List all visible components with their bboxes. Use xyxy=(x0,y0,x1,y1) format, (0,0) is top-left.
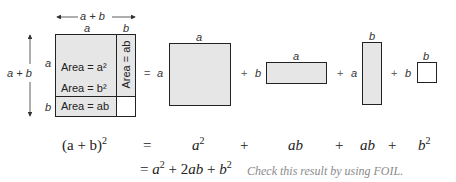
piece-a-squared xyxy=(169,43,231,106)
row1-plus-1: + xyxy=(240,138,248,153)
plus-sign-1: + xyxy=(241,68,247,79)
row2-b-exponent: 2 xyxy=(227,159,232,170)
term1-base: a xyxy=(192,137,200,153)
top-label-a: a xyxy=(84,23,90,34)
row2-expression: = a2 + 2ab + b2 xyxy=(140,162,232,177)
area-a-squared-text: Area = a² xyxy=(61,62,107,73)
piece-ab-horizontal-side-label: b xyxy=(255,68,261,79)
side-label-b: b xyxy=(45,102,51,113)
piece-ab-vertical xyxy=(362,42,382,105)
piece-b-squared-top-label: b xyxy=(423,51,429,62)
term1-exponent: 2 xyxy=(200,135,205,146)
row2-a-exponent: 2 xyxy=(160,159,165,170)
piece-b-squared-side-label: b xyxy=(405,68,411,79)
foil-note: Check this result by using FOIL. xyxy=(247,165,403,177)
row2-plus-1: + xyxy=(168,161,176,177)
row1-term-a-squared: a2 xyxy=(192,138,205,153)
term3-text: ab xyxy=(360,137,375,153)
row2-plus-2: + xyxy=(207,161,215,177)
term2-text: ab xyxy=(288,137,303,153)
row1-term-ab-1: ab xyxy=(288,138,303,153)
piece-ab-vertical-top-label: b xyxy=(369,31,375,42)
piece-ab-vertical-side-label: a xyxy=(351,68,357,79)
row1-term-b-squared: b2 xyxy=(418,138,431,153)
row1-plus-3: + xyxy=(388,138,396,153)
row1-plus-2: + xyxy=(335,138,343,153)
row1-equals: = xyxy=(143,138,151,153)
top-dimension-text: a + b xyxy=(80,10,105,22)
top-label-b: b xyxy=(123,23,129,34)
plus-sign-3: + xyxy=(391,68,397,79)
side-label-a: a xyxy=(45,58,51,69)
lhs-exponent: 2 xyxy=(102,135,107,146)
left-dimension-label: a + b xyxy=(6,68,33,79)
plus-sign-2: + xyxy=(337,68,343,79)
term4-base: b xyxy=(418,137,426,153)
row2-b: b xyxy=(219,161,227,177)
area-b-squared-text: Area = b² xyxy=(61,83,107,94)
region-b-squared xyxy=(116,96,136,117)
equals-sign: = xyxy=(144,68,150,79)
piece-ab-horizontal-top-label: a xyxy=(293,51,299,62)
piece-a-squared-top-label: a xyxy=(196,32,202,43)
row2-a: a xyxy=(152,161,160,177)
piece-ab-horizontal xyxy=(266,62,327,84)
piece-a-squared-side-label: a xyxy=(157,68,163,79)
row2-middle-term: 2ab xyxy=(181,161,204,177)
lhs-expression: (a + b)2 xyxy=(62,138,107,153)
area-ab-bottom-text: Area = ab xyxy=(61,101,109,112)
lhs-base: (a + b) xyxy=(62,137,102,153)
top-dimension-label: a + b xyxy=(80,11,105,22)
term4-exponent: 2 xyxy=(426,135,431,146)
area-ab-right-text: Area = ab xyxy=(121,39,132,91)
row2-equals: = xyxy=(140,161,148,177)
row1-term-ab-2: ab xyxy=(360,138,375,153)
piece-b-squared xyxy=(417,62,437,83)
